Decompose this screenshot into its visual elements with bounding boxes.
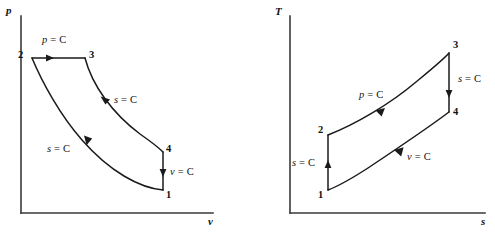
ts-state-point-4: 4: [453, 107, 458, 118]
pv-state-point-4: 4: [166, 144, 171, 155]
pressure-volume-diagram: p v 2 3 4 1 p = C s = C s = C v = C: [0, 0, 248, 234]
ts-process-2-3: [328, 53, 449, 135]
temperature-entropy-diagram: T s 1 2 3 4 s = C p = C s = C v = C: [248, 0, 495, 234]
pv-y-axis-label: p: [6, 5, 12, 16]
pv-state-point-3: 3: [89, 50, 94, 61]
ts-y-axis-label: T: [275, 6, 282, 17]
pv-arrow-4-1-icon: [160, 169, 167, 177]
ts-process-label-2-3-rest: = C: [364, 89, 383, 100]
ts-state-point-3: 3: [453, 40, 458, 51]
pv-process-label-2-3: p = C: [42, 35, 66, 46]
pv-diagram-svg: [0, 0, 248, 234]
pv-state-point-2: 2: [18, 50, 23, 61]
ts-process-label-3-4: s = C: [458, 74, 481, 85]
pv-process-1-2: [32, 58, 163, 190]
pv-process-label-4-1: v = C: [170, 167, 194, 178]
diesel-cycle-figure: p v 2 3 4 1 p = C s = C s = C v = C: [0, 0, 495, 234]
ts-process-label-1-2-rest: = C: [296, 157, 315, 168]
ts-arrow-2-3-icon: [375, 108, 385, 116]
ts-arrow-3-4-icon: [446, 90, 453, 98]
pv-process-label-3-4: s = C: [114, 95, 137, 106]
ts-state-point-2: 2: [318, 125, 323, 136]
pv-process-label-1-2-rest: = C: [51, 143, 70, 154]
pv-state-point-1: 1: [166, 190, 171, 201]
pv-process-label-3-4-rest: = C: [118, 94, 137, 105]
ts-process-label-1-2: s = C: [292, 158, 315, 169]
ts-arrow-4-1-icon: [394, 147, 404, 156]
ts-x-axis-label: s: [481, 216, 485, 227]
pv-arrow-2-3-icon: [46, 55, 54, 62]
ts-process-label-4-1: v = C: [407, 152, 431, 163]
ts-process-label-3-4-rest: = C: [462, 73, 481, 84]
pv-process-label-2-3-rest: = C: [47, 34, 66, 45]
ts-arrow-1-2-icon: [325, 160, 332, 168]
pv-process-label-1-2: s = C: [47, 144, 70, 155]
pv-process-label-4-1-rest: = C: [175, 166, 194, 177]
ts-process-label-2-3: p = C: [359, 90, 383, 101]
ts-state-point-1: 1: [318, 190, 323, 201]
pv-x-axis-label: v: [208, 216, 213, 227]
ts-process-label-4-1-rest: = C: [412, 151, 431, 162]
